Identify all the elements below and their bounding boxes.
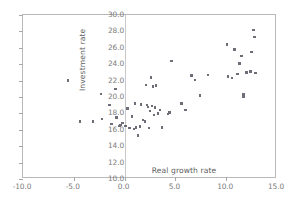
data-point — [128, 127, 130, 129]
y-axis-tick-label: 20.0 — [108, 92, 124, 101]
data-point — [242, 96, 244, 98]
data-point — [231, 77, 233, 79]
data-point — [194, 79, 196, 81]
x-axis-tick — [226, 177, 227, 181]
data-point — [226, 43, 228, 45]
zero-axis-line — [125, 15, 126, 177]
x-axis-tick-label: 15.0 — [268, 182, 284, 191]
y-axis-tick-label: 26.0 — [108, 42, 124, 51]
data-point — [131, 115, 133, 117]
data-point — [152, 85, 154, 87]
data-point — [233, 48, 235, 50]
data-point — [144, 120, 146, 122]
data-point — [199, 94, 201, 96]
data-point — [249, 70, 251, 72]
data-point — [148, 127, 150, 129]
x-axis-tick-label: 10.0 — [217, 182, 233, 191]
data-point — [207, 74, 209, 76]
data-point — [253, 36, 255, 38]
data-point — [147, 106, 149, 108]
data-point — [124, 125, 126, 127]
x-axis-tick-label: -10.0 — [13, 182, 32, 191]
data-point — [184, 109, 186, 111]
data-point — [126, 107, 128, 109]
data-point — [137, 134, 139, 136]
data-point — [150, 76, 152, 78]
data-point — [149, 110, 151, 112]
data-point — [157, 112, 159, 114]
x-axis-tick-label: 0.0 — [118, 182, 129, 191]
data-point — [240, 55, 242, 57]
data-point — [155, 84, 157, 86]
x-axis-tick — [175, 177, 176, 181]
y-axis-tick-label: 14.0 — [108, 141, 124, 150]
y-axis-tick-label: 22.0 — [108, 75, 124, 84]
data-point — [135, 126, 137, 128]
data-point — [161, 126, 163, 128]
y-axis-tick-label: 24.0 — [108, 59, 124, 68]
data-point — [134, 102, 136, 104]
data-point — [250, 51, 252, 53]
data-point — [153, 114, 155, 116]
data-point — [159, 109, 161, 111]
x-axis-tick-label: -5.0 — [66, 182, 80, 191]
x-axis-tick-labels: -10.0-5.00.05.010.015.0 — [0, 182, 298, 196]
data-point — [180, 102, 182, 104]
data-point — [154, 106, 156, 108]
y-axis-tick-labels: 10.012.014.016.018.020.022.024.026.028.0… — [0, 14, 124, 178]
data-point — [254, 72, 256, 74]
data-point — [252, 29, 254, 31]
data-point — [151, 105, 153, 107]
data-point — [236, 73, 238, 75]
data-point — [170, 60, 172, 62]
y-axis-tick-label: 18.0 — [108, 108, 124, 117]
data-point — [140, 103, 142, 105]
x-axis-tick — [125, 177, 126, 181]
data-point — [245, 71, 247, 73]
y-axis-tick — [19, 179, 23, 180]
y-axis-tick-label: 12.0 — [108, 157, 124, 166]
y-axis-tick-label: 16.0 — [108, 124, 124, 133]
x-axis-tick-label: 5.0 — [169, 182, 180, 191]
data-point — [145, 84, 147, 86]
data-point — [190, 74, 192, 76]
data-point — [238, 62, 240, 64]
data-point — [139, 125, 141, 127]
data-point — [168, 111, 170, 113]
y-axis-title: Investment rate — [78, 22, 92, 98]
data-point — [227, 75, 229, 77]
scatter-plot-figure: 10.012.014.016.018.020.022.024.026.028.0… — [0, 0, 298, 201]
y-axis-tick-label: 28.0 — [108, 26, 124, 35]
y-axis-tick-label: 30.0 — [108, 10, 124, 19]
x-axis-title: Real growth rate — [140, 166, 228, 175]
